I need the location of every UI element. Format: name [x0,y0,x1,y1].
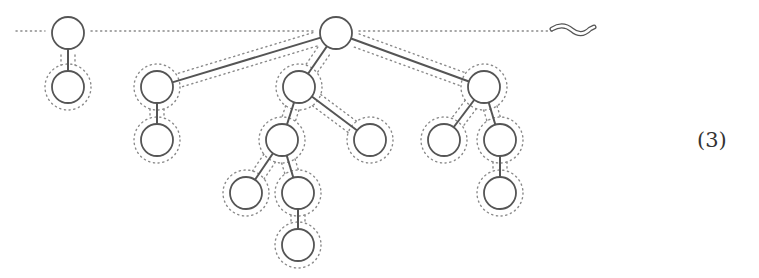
tree-node-M2 [266,124,298,156]
edge-contour [295,110,299,121]
edge-contour [359,34,466,73]
tree-edge [489,102,496,124]
tree-node-R [320,17,352,49]
tree-node-M2a [230,177,262,209]
edge-contour [282,163,285,174]
tree-edge [308,46,327,74]
edge-contour [497,106,500,117]
tree-node-M1 [283,71,315,103]
edge-contour [295,159,298,170]
tree-edge [287,155,294,177]
squiggle-tail-icon [552,26,594,34]
tree-edge [312,97,357,131]
tree-node-A [52,17,84,49]
tree-node-B [52,71,84,103]
tree-diagram [0,0,759,278]
tree-node-R1bb [484,177,516,209]
edge-contour [484,110,487,121]
tree-node-L1 [141,71,173,103]
tree-node-R1b [484,124,516,156]
tree-node-M2b [282,177,314,209]
tree-edge [454,100,475,127]
equation-number: (3) [697,128,727,152]
tree-node-R1 [468,71,500,103]
tree-edge [255,153,273,180]
edge-contour [282,106,286,117]
tree-edge [351,38,469,81]
edge-contour [354,47,461,86]
tree-node-L1c [141,124,173,156]
tree-node-M2bb [282,229,314,261]
tree-node-M3 [354,124,386,156]
tree-nodes [52,17,516,261]
tree-edge [287,102,294,125]
tree-node-R1a [428,124,460,156]
